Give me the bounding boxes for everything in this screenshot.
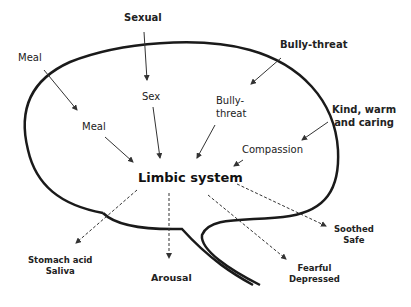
arrow-bully-outer: [251, 58, 281, 84]
arrow-kind-outer: [302, 122, 328, 140]
label-soothed-safe: Soothed Safe: [334, 224, 374, 246]
arrow-sexual-to-sex: [144, 32, 147, 80]
label-fearful-line1: Fearful: [289, 263, 340, 274]
label-fearful-depressed: Fearful Depressed: [289, 263, 340, 285]
label-bully-line1: Bully-: [216, 94, 246, 107]
label-sexual: Sexual: [124, 12, 162, 24]
label-kind-line2: and caring: [332, 116, 396, 129]
label-bully-threat-inner: Bully- threat: [216, 94, 246, 120]
label-soothed-line1: Soothed: [334, 224, 374, 235]
arrow-compassion-to-limbic: [234, 160, 243, 166]
arrow-limbic-to-stomach: [76, 190, 137, 243]
label-sex: Sex: [142, 91, 160, 103]
arrow-limbic-to-fearful: [208, 195, 286, 259]
label-soothed-line2: Safe: [334, 235, 374, 246]
label-meal-inner: Meal: [82, 121, 106, 133]
label-bully-line2: threat: [216, 107, 246, 120]
label-stomach-line1: Stomach acid: [28, 255, 92, 266]
arrow-sex-to-limbic: [153, 107, 160, 158]
arrow-meal-outer: [44, 70, 77, 110]
label-limbic-system: Limbic system: [138, 172, 243, 184]
label-kind-warm-caring: Kind, warm and caring: [332, 103, 396, 129]
label-compassion: Compassion: [242, 144, 303, 156]
label-kind-line1: Kind, warm: [332, 103, 396, 116]
label-bully-threat-outer: Bully-threat: [280, 39, 347, 51]
label-meal-outer: Meal: [18, 52, 42, 64]
label-stomach-saliva: Stomach acid Saliva: [28, 255, 92, 277]
brain-outline: [25, 42, 339, 285]
label-arousal: Arousal: [151, 272, 192, 284]
arrow-meal-to-limbic: [105, 137, 133, 162]
label-fearful-line2: Depressed: [289, 274, 340, 285]
arrow-bully-to-limbic: [197, 125, 215, 158]
label-stomach-line2: Saliva: [28, 266, 92, 277]
